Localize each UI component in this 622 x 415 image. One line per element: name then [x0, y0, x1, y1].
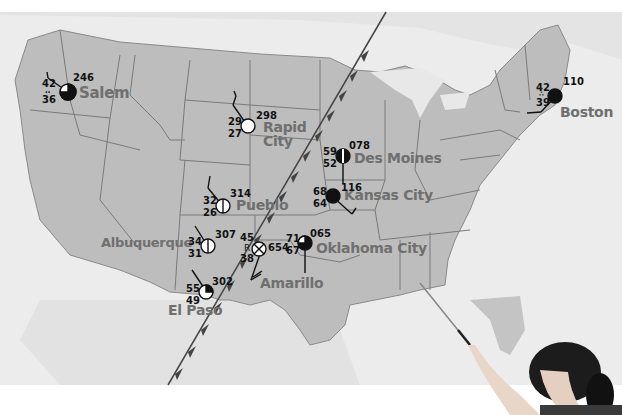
kc-dewpoint: 64: [313, 198, 327, 209]
okc-pressure: 065: [310, 228, 331, 239]
bos-dewpoint: 39: [536, 97, 550, 108]
city-label-oklahoma-city: Oklahoma City: [316, 240, 427, 256]
rapid-pressure: 298: [256, 110, 277, 121]
ama-thunderstorm-icon: R: [244, 243, 250, 253]
city-label-albuquerque: Albuquerque: [101, 235, 192, 250]
city-label-city: City: [263, 134, 307, 148]
abq-pressure: 307: [215, 229, 236, 240]
elp-pressure: 302: [212, 276, 233, 287]
pueblo-temperature: 32: [203, 195, 217, 206]
kc-pressure: 116: [341, 182, 362, 193]
desm-pressure: 078: [349, 140, 370, 151]
pueblo-pressure: 314: [230, 188, 251, 199]
city-label-des-moines: Des Moines: [354, 150, 441, 166]
ama-temperature: 45: [240, 232, 254, 243]
rapid-temperature: 29: [228, 116, 242, 127]
abq-dewpoint: 31: [188, 248, 202, 259]
okc-temperature: 71: [286, 233, 300, 244]
city-label-salem: Salem: [79, 84, 129, 102]
elp-temperature: 55: [186, 283, 200, 294]
desm-temperature: 59: [323, 146, 337, 157]
city-label-pueblo: Pueblo: [236, 197, 288, 213]
abq-temperature: 34: [188, 236, 202, 247]
city-label-rapid-city: Rapid City: [263, 120, 307, 148]
rapid-dewpoint: 27: [228, 128, 242, 139]
salem-dewpoint: 36: [42, 94, 56, 105]
city-label-amarillo: Amarillo: [260, 275, 323, 291]
city-label-boston: Boston: [560, 104, 613, 120]
weather-map: Salem Rapid City Des Moines Kansas City …: [0, 0, 622, 415]
kc-temperature: 68: [313, 186, 327, 197]
map-background: [0, 0, 622, 415]
bos-pressure: 110: [563, 76, 584, 87]
desm-dewpoint: 52: [323, 158, 337, 169]
pueblo-dewpoint: 26: [203, 207, 217, 218]
okc-dewpoint: 67: [286, 245, 300, 256]
ama-dewpoint: 38: [240, 253, 254, 264]
city-label-rapid: Rapid: [263, 120, 307, 134]
salem-pressure: 246: [73, 72, 94, 83]
elp-dewpoint: 49: [186, 295, 200, 306]
